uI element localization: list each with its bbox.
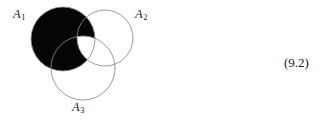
set-label-a1-subscript: 1 — [21, 12, 25, 22]
figure-page: A1 A2 A3 (9.2) — [0, 0, 329, 122]
set-label-a1-base: A — [13, 7, 21, 21]
set-label-a2-base: A — [135, 7, 143, 21]
venn-diagram-svg — [0, 0, 200, 122]
set-label-a2-subscript: 2 — [143, 12, 147, 22]
set-label-a2: A2 — [135, 8, 148, 22]
set-label-a3: A3 — [72, 101, 85, 115]
shaded-region-a1-minus-a2-cap-a3 — [0, 0, 200, 122]
set-label-a3-subscript: 3 — [80, 105, 84, 115]
equation-number: (9.2) — [284, 56, 309, 69]
venn-diagram-figure: A1 A2 A3 — [0, 0, 200, 122]
set-label-a3-base: A — [72, 100, 80, 114]
set-label-a1: A1 — [13, 8, 26, 22]
